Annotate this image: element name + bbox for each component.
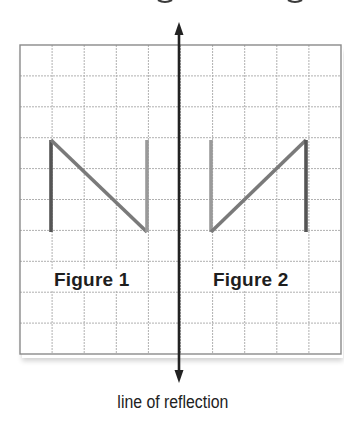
line-of-reflection-label: line of reflection [21,392,324,413]
figure-1-label: Figure 1 [51,269,133,291]
cropped-heading-fragment [158,0,302,2]
figure-2-label: Figure 2 [210,269,292,291]
reflection-diagram [0,0,344,429]
arrow-down-icon [175,370,184,383]
arrow-up-icon [175,22,184,35]
